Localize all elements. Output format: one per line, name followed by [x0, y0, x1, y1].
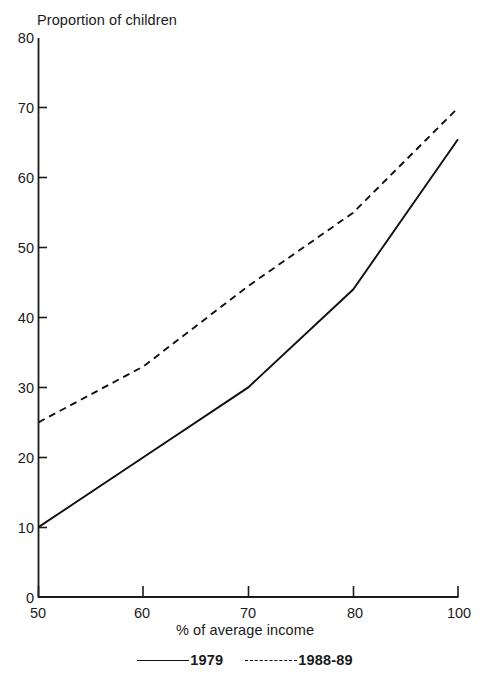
y-tick-label-80: 80	[4, 31, 34, 46]
line-chart-figure: Proportion of children 80 70 60 50 40 30…	[0, 0, 490, 683]
y-tick-label-70: 70	[4, 101, 34, 116]
y-tick-marks	[39, 108, 48, 528]
y-tick-label-50: 50	[4, 241, 34, 256]
x-tick-marks	[39, 586, 459, 597]
series-line-1979	[39, 139, 459, 527]
axis-group	[38, 38, 459, 598]
y-axis-label: Proportion of children	[37, 12, 177, 28]
x-tick-label-70: 70	[225, 606, 271, 621]
plot-area	[0, 0, 490, 683]
legend-item-1979[interactable]: 1979	[137, 652, 223, 668]
legend-label-1979: 1979	[190, 652, 223, 668]
legend-item-1988-89[interactable]: 1988-89	[245, 652, 353, 668]
y-tick-label-60: 60	[4, 171, 34, 186]
legend-line-solid-icon	[137, 654, 189, 666]
series-line-1988-89	[39, 108, 459, 422]
y-tick-label-20: 20	[4, 451, 34, 466]
legend-label-1988-89: 1988-89	[298, 652, 353, 668]
y-tick-label-0: 0	[4, 591, 34, 606]
data-series-group	[39, 108, 459, 527]
x-tick-label-60: 60	[119, 606, 165, 621]
y-tick-label-40: 40	[4, 311, 34, 326]
x-axis-label: % of average income	[0, 622, 490, 638]
x-tick-label-80: 80	[332, 606, 378, 621]
y-tick-label-30: 30	[4, 381, 34, 396]
chart-legend: 1979 1988-89	[0, 652, 490, 668]
x-tick-label-50: 50	[15, 606, 61, 621]
x-tick-label-100: 100	[436, 606, 482, 621]
legend-line-dashed-icon	[245, 654, 297, 666]
y-tick-label-10: 10	[4, 521, 34, 536]
